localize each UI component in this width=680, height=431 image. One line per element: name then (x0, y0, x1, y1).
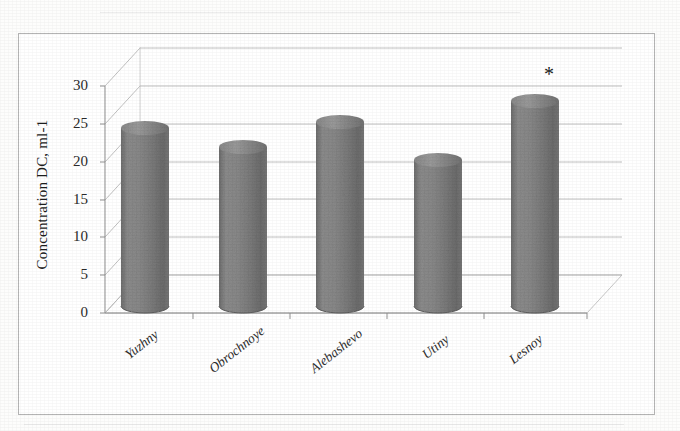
significance-asterisk: * (544, 64, 554, 84)
y-tick-label: 15 (62, 191, 88, 208)
y-axis-tick-labels: 30 25 20 15 10 5 0 (58, 0, 88, 431)
scan-artifact (100, 12, 520, 13)
y-tick-label: 0 (62, 304, 88, 321)
y-tick-label: 30 (62, 77, 88, 94)
y-tick-label: 20 (62, 153, 88, 170)
scanned-page-background: Concentration DC, ml-1 30 25 20 15 10 5 … (0, 0, 680, 431)
y-tick-label: 5 (62, 266, 88, 283)
y-tick-label: 25 (62, 115, 88, 132)
scan-artifact (24, 424, 624, 425)
y-tick-label: 10 (62, 228, 88, 245)
y-axis-title: Concentration DC, ml-1 (34, 90, 51, 300)
